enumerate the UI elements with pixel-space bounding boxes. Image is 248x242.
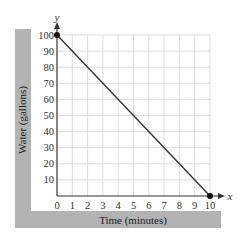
x-tick-label: 6 [146, 200, 151, 211]
x-axis-label: Time (minutes) [99, 214, 167, 227]
y-axis-variable: y [54, 11, 60, 23]
axes [54, 22, 225, 199]
data-point [54, 32, 60, 38]
x-axis-variable: x [227, 190, 233, 202]
y-tick-label: 80 [44, 62, 55, 73]
x-axis-arrow-icon [218, 193, 225, 199]
x-tick-label: 3 [100, 200, 105, 211]
x-tick-label: 1 [70, 200, 75, 211]
y-tick-label: 70 [44, 78, 55, 89]
data-point [207, 193, 213, 199]
y-tick-label: 90 [44, 46, 55, 57]
y-tick-label: 10 [44, 174, 55, 185]
y-tick-label: 30 [44, 142, 55, 153]
line-chart: 012345678910102030405060708090100 Water … [0, 0, 248, 242]
x-tick-label: 9 [192, 200, 197, 211]
x-tick-label: 8 [177, 200, 182, 211]
y-axis-arrow-icon [54, 22, 60, 29]
x-tick-label: 2 [85, 200, 90, 211]
y-axis-label: Water (gallons) [16, 86, 29, 154]
tick-labels: 012345678910102030405060708090100 [38, 30, 215, 212]
y-tick-label: 20 [44, 158, 55, 169]
y-tick-label: 100 [38, 30, 54, 41]
x-tick-label: 5 [131, 200, 136, 211]
y-tick-label: 40 [44, 126, 55, 137]
x-tick-label: 0 [54, 200, 59, 211]
x-tick-label: 10 [205, 200, 216, 211]
x-tick-label: 4 [116, 200, 122, 211]
x-tick-label: 7 [161, 200, 166, 211]
y-tick-label: 50 [44, 110, 55, 121]
y-tick-label: 60 [44, 94, 55, 105]
